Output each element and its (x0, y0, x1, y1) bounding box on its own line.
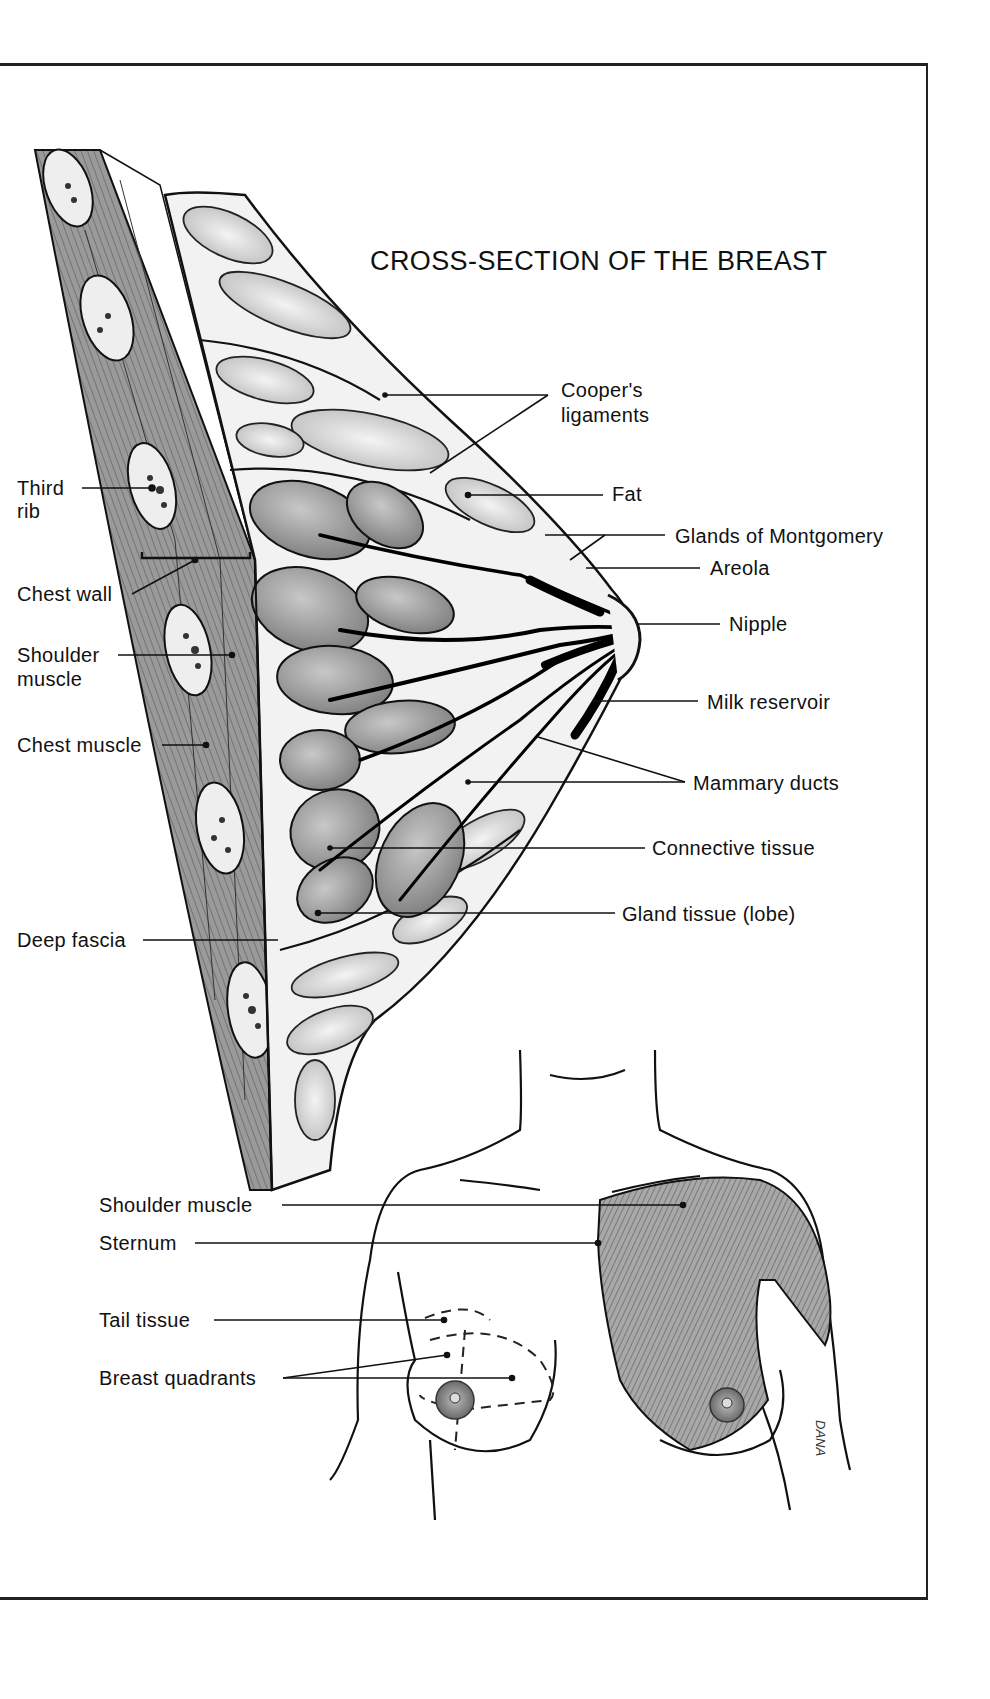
label-coopers-ligaments-line1: Cooper's (561, 378, 643, 402)
label-third-rib-line1: Third (17, 476, 64, 500)
torso-front-view (330, 1050, 850, 1520)
label-breast-quadrants: Breast quadrants (99, 1366, 256, 1390)
artist-signature: DANA (813, 1420, 828, 1456)
diagram-title: CROSS-SECTION OF THE BREAST (370, 246, 827, 277)
label-torso-shoulder-muscle: Shoulder muscle (99, 1193, 252, 1217)
label-milk-reservoir: Milk reservoir (707, 690, 830, 714)
label-gland-tissue-lobe: Gland tissue (lobe) (622, 902, 796, 926)
label-chest-muscle: Chest muscle (17, 733, 142, 757)
cross-section (34, 143, 640, 1190)
label-nipple: Nipple (729, 612, 788, 636)
label-areola: Areola (710, 556, 770, 580)
label-mammary-ducts: Mammary ducts (693, 771, 839, 795)
label-fat: Fat (612, 482, 642, 506)
label-third-rib-line2: rib (17, 499, 40, 523)
label-tail-tissue: Tail tissue (99, 1308, 190, 1332)
label-shoulder-muscle-line2: muscle (17, 667, 82, 691)
label-deep-fascia: Deep fascia (17, 928, 126, 952)
label-chest-wall: Chest wall (17, 582, 112, 606)
label-coopers-ligaments-line2: ligaments (561, 403, 649, 427)
label-shoulder-muscle-line1: Shoulder (17, 643, 99, 667)
label-sternum: Sternum (99, 1231, 177, 1255)
breast-quadrant-lines (420, 1309, 553, 1450)
label-connective-tissue: Connective tissue (652, 836, 815, 860)
label-glands-of-montgomery: Glands of Montgomery (675, 524, 883, 548)
